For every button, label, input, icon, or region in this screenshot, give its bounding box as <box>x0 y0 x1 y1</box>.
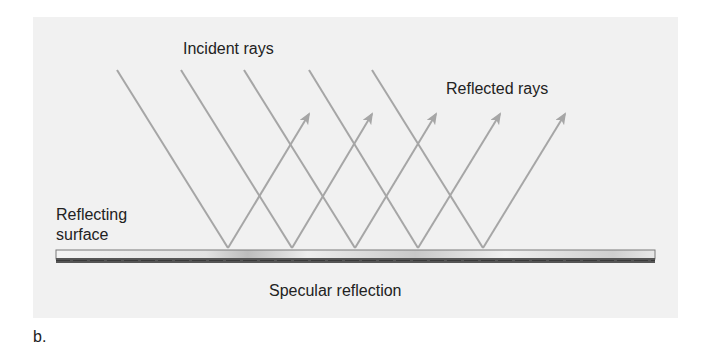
specular-reflection-diagram <box>0 0 711 353</box>
incident-rays-label: Incident rays <box>183 40 274 58</box>
reflecting-surface-label: Reflecting surface <box>56 205 127 245</box>
figure-caption: Specular reflection <box>269 282 402 300</box>
reflected-rays-label: Reflected rays <box>446 80 548 98</box>
reflecting-surface <box>56 250 655 263</box>
panel-letter: b. <box>33 328 46 346</box>
reflecting-surface-label-line2: surface <box>56 225 127 245</box>
reflecting-surface-label-line1: Reflecting <box>56 205 127 225</box>
